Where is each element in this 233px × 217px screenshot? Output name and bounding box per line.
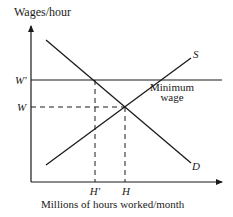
h-tick-label: H xyxy=(121,185,131,197)
x-axis-label: Millions of hours worked/month xyxy=(41,198,185,210)
demand-label: D xyxy=(191,160,200,172)
minimum-wage-label-line2: wage xyxy=(160,91,183,103)
min-wage-diagram: Wages/hour Millions of hours worked/mont… xyxy=(0,0,233,217)
supply-curve xyxy=(46,58,191,165)
supply-label: S xyxy=(193,48,199,60)
min-wage-tick-label: W' xyxy=(15,74,27,86)
y-axis-label: Wages/hour xyxy=(14,5,71,19)
h-prime-tick-label: H' xyxy=(89,185,101,197)
eq-wage-tick-label: W xyxy=(17,101,27,113)
